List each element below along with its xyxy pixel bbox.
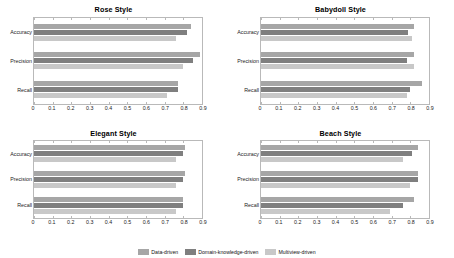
bar-group: Precision [34,47,202,76]
bar-group: Precision [34,167,202,193]
bar-group: Accuracy [261,18,429,47]
x-tick-label: 0.8 [180,105,187,111]
category-label: Precision [237,176,259,182]
bar [261,58,407,63]
bar [34,209,176,214]
category-label: Recall [244,202,259,208]
bar [261,24,414,29]
x-tick-label: 0.1 [275,219,282,225]
chart-panel-rose-style: Rose StyleAccuracyPrecisionRecall00.10.2… [0,0,227,124]
category-label: Accuracy [10,29,32,35]
panel-title: Elegant Style [0,129,227,138]
x-tick-label: 0.9 [426,105,433,111]
figure-container: Rose StyleAccuracyPrecisionRecall00.10.2… [0,0,454,258]
legend-item[interactable]: Domain-knowledge-driven [185,249,258,255]
x-tick-label: 0.1 [48,105,55,111]
bar-group: Recall [261,75,429,104]
x-tick-label: 0.3 [86,219,93,225]
x-tick-label: 0.9 [199,105,206,111]
plot-area: AccuracyPrecisionRecall [33,17,203,105]
bar-group: Accuracy [34,18,202,47]
x-tickmark [429,18,430,20]
plot-area: AccuracyPrecisionRecall [260,17,430,105]
bar [34,64,183,69]
bar [34,171,185,176]
panel-title: Rose Style [0,5,227,14]
x-tick-label: 0.4 [332,105,339,111]
bar [34,52,200,57]
bar [34,177,183,182]
bar [34,197,183,202]
x-tick-label: 0.6 [143,219,150,225]
bar [261,93,407,98]
legend-swatch [138,249,149,255]
legend-item[interactable]: Multiview-driven [265,249,315,255]
chart-panel-babydoll-style: Babydoll StyleAccuracyPrecisionRecall00.… [227,0,454,124]
bar [34,81,178,86]
x-axis: 00.10.20.30.40.50.60.70.80.9 [260,105,430,114]
x-tick-label: 0.8 [407,105,414,111]
bar-groups: AccuracyPrecisionRecall [261,18,429,104]
legend-label: Data-driven [151,249,178,255]
bar-groups: AccuracyPrecisionRecall [261,141,429,218]
x-tick-label: 0.7 [389,219,396,225]
panel-title: Beach Style [227,129,454,138]
x-tick-label: 0.5 [351,105,358,111]
bar [261,171,418,176]
category-label: Accuracy [237,151,259,157]
bar [34,203,183,208]
x-tick-label: 0 [32,219,35,225]
x-tick-label: 0.1 [275,105,282,111]
bar-group: Accuracy [34,141,202,167]
legend-swatch [185,249,196,255]
x-tickmark [429,141,430,143]
x-tick-label: 0.8 [180,219,187,225]
legend-item[interactable]: Data-driven [138,249,178,255]
x-tickmark [202,141,203,143]
bar [261,81,422,86]
bar [261,36,412,41]
chart-panel-elegant-style: Elegant StyleAccuracyPrecisionRecall00.1… [0,124,227,236]
bar [34,157,176,162]
x-tick-label: 0.4 [105,105,112,111]
x-tick-label: 0.4 [105,219,112,225]
bar [261,151,412,156]
x-tick-label: 0.7 [162,219,169,225]
bar [261,177,418,182]
panel-grid: Rose StyleAccuracyPrecisionRecall00.10.2… [0,0,454,236]
bar [34,151,183,156]
bar-group: Recall [34,192,202,218]
x-tick-label: 0.2 [67,105,74,111]
bar-group: Precision [261,167,429,193]
category-label: Recall [17,202,32,208]
bar-group: Accuracy [261,141,429,167]
x-tick-label: 0.9 [199,219,206,225]
x-tick-label: 0 [259,105,262,111]
bar [34,58,193,63]
x-tick-label: 0 [32,105,35,111]
x-tick-label: 0.2 [294,105,301,111]
x-tick-label: 0.9 [426,219,433,225]
bar [261,203,403,208]
chart-panel-beach-style: Beach StyleAccuracyPrecisionRecall00.10.… [227,124,454,236]
legend-label: Multiview-driven [278,249,315,255]
x-tick-label: 0.3 [313,105,320,111]
plot-area: AccuracyPrecisionRecall [33,140,203,219]
x-tick-label: 0.6 [143,105,150,111]
bar-groups: AccuracyPrecisionRecall [34,141,202,218]
category-label: Recall [17,87,32,93]
category-label: Accuracy [237,29,259,35]
bar [261,157,403,162]
x-tickmark [429,216,430,218]
bar [34,36,176,41]
x-tick-label: 0.5 [124,105,131,111]
plot-area: AccuracyPrecisionRecall [260,140,430,219]
x-tick-label: 0.1 [48,219,55,225]
x-tick-label: 0 [259,219,262,225]
category-label: Precision [10,176,32,182]
category-label: Accuracy [10,151,32,157]
bar-group: Recall [34,75,202,104]
bar [261,64,414,69]
x-tick-label: 0.8 [407,219,414,225]
bar [261,145,418,150]
